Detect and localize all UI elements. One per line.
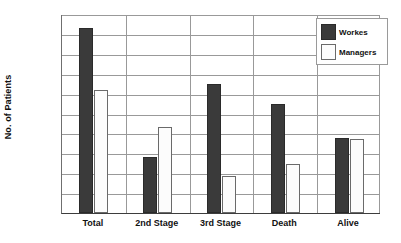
bar (350, 139, 364, 213)
bar (335, 138, 349, 213)
bar (286, 164, 300, 213)
x-axis-tick-labels: Total2nd Stage3rd StageDeathAlive (61, 218, 380, 238)
x-tick-label: 3rd Stage (200, 218, 241, 228)
x-tick-label: Alive (337, 218, 359, 228)
y-axis-tick-labels (17, 15, 61, 214)
legend-swatch (321, 24, 336, 40)
bar (143, 157, 157, 213)
x-tick-label: Death (272, 218, 297, 228)
y-axis-title: No. of Patients (0, 0, 16, 214)
bar-group (79, 15, 108, 213)
bar-chart: No. of Patients Total2nd Stage3rd StageD… (0, 0, 401, 243)
legend-item: Managers (321, 42, 387, 62)
legend-label: Workes (339, 28, 368, 37)
legend-swatch (321, 44, 336, 60)
bar (207, 84, 221, 213)
bar-group (143, 15, 172, 213)
bar (158, 127, 172, 213)
y-axis-title-text: No. of Patients (3, 75, 13, 140)
x-tick-label: Total (82, 218, 103, 228)
bar-group (207, 15, 236, 213)
bar (94, 90, 108, 213)
x-tick-label: 2nd Stage (135, 218, 178, 228)
bar (271, 104, 285, 213)
chart-legend: WorkesManagers (316, 18, 388, 65)
legend-item: Workes (321, 22, 387, 42)
bar (222, 176, 236, 213)
legend-label: Managers (339, 48, 376, 57)
bar (79, 28, 93, 213)
bar-group (271, 15, 300, 213)
